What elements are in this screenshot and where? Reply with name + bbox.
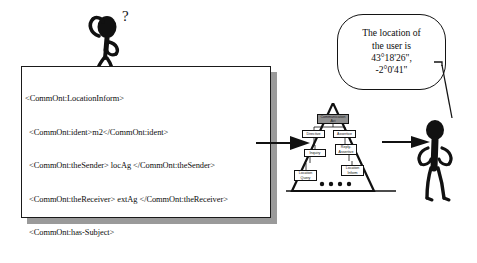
- svg-text:?: ?: [122, 8, 129, 24]
- thinking-person-figure: ?: [76, 6, 146, 68]
- ontology-node-communication-act[interactable]: Communication Act: [317, 114, 349, 124]
- xml-message-box: <CommOnt:LocationInform> <CommOnt:ident>…: [21, 66, 271, 218]
- xml-line: <CommOnt:theReceiver> extAg </CommOnt:th…: [25, 194, 270, 205]
- ontology-node-location-query[interactable]: Location Query: [294, 170, 317, 181]
- ontology-node-label: Location Inform: [343, 166, 363, 175]
- ontology-node-label: Assertive: [337, 132, 352, 136]
- xml-line: <CommOnt:LocationInform>: [25, 93, 270, 104]
- ontology-node-inquiry[interactable]: Inquiry: [304, 149, 326, 157]
- ontology-node-location-inform[interactable]: Location Inform: [341, 165, 364, 176]
- ontology-node-label: Communication Act: [319, 115, 348, 124]
- xml-line: <CommOnt:has-Subject>: [25, 227, 270, 238]
- xml-line: <CommOnt:ident>m2</CommOnt:ident>: [25, 127, 270, 138]
- speech-bubble-tail: [432, 60, 468, 132]
- ontology-node-reply-assertive[interactable]: Reply-Assertive: [335, 144, 357, 155]
- ontology-pyramid: Communication Act Directive Assertive Re…: [286, 103, 396, 203]
- speech-bubble: The location of the user is 43°18'26", -…: [337, 14, 446, 90]
- question-mark-icon: ?: [122, 8, 129, 24]
- ontology-node-label: Inquiry: [310, 151, 321, 155]
- speech-bubble-text: The location of the user is 43°18'26", -…: [358, 27, 425, 77]
- ontology-node-assertive[interactable]: Assertive: [333, 130, 356, 138]
- diagram-canvas: ? <CommOnt:LocationInform> <CommOnt:iden…: [0, 0, 477, 263]
- ontology-node-label: Location Query: [296, 171, 316, 180]
- ontology-node-label: Directive: [307, 132, 321, 136]
- xml-line: <CommOnt:theSender> locAg </CommOnt:theS…: [25, 160, 270, 171]
- xml-message-code: <CommOnt:LocationInform> <CommOnt:ident>…: [25, 71, 270, 263]
- ontology-node-label: Reply-Assertive: [337, 145, 356, 154]
- pyramid-base-dots: [320, 182, 351, 186]
- ontology-node-directive[interactable]: Directive: [302, 130, 325, 138]
